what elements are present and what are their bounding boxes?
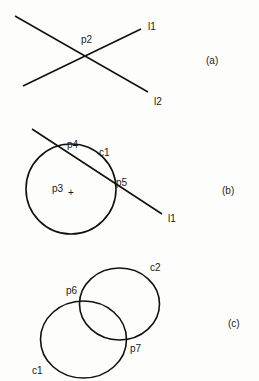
panel-b: p4 c1 p5 p3 + l1 (b): [26, 129, 234, 234]
caption-b: (b): [222, 185, 234, 196]
line-l1: [32, 129, 162, 214]
diagram-svg: p2 l1 l2 (a) p4 c1 p5 p3 + l1 (b) c2 p6 …: [0, 0, 259, 381]
ellipse-c2: [80, 268, 160, 340]
line-label-l2: l2: [154, 96, 162, 107]
circle-label-c1: c1: [99, 147, 110, 158]
point-label-p3: p3: [52, 183, 64, 194]
point-label-p7: p7: [130, 343, 142, 354]
center-marker-p3: +: [68, 187, 74, 198]
ellipse-label-c1: c1: [32, 365, 43, 376]
line-label-l1: l1: [148, 21, 156, 32]
caption-c: (c): [228, 318, 240, 329]
point-label-p5: p5: [116, 177, 128, 188]
caption-a: (a): [206, 55, 218, 66]
line-label-l1: l1: [168, 213, 176, 224]
point-label-p6: p6: [66, 285, 78, 296]
point-label-p2: p2: [81, 34, 93, 45]
panel-a: p2 l1 l2 (a): [15, 16, 218, 107]
panel-c: c2 p6 p7 c1 (c): [32, 262, 240, 378]
geometry-diagram: p2 l1 l2 (a) p4 c1 p5 p3 + l1 (b) c2 p6 …: [0, 0, 259, 381]
point-label-p4: p4: [67, 139, 79, 150]
ellipse-label-c2: c2: [150, 262, 161, 273]
